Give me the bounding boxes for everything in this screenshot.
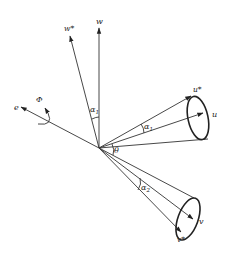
- v-star-label: v*: [177, 235, 185, 244]
- alpha1-arc-w: [92, 117, 99, 119]
- u-cone-base: [184, 94, 213, 141]
- w-star-vector: [70, 36, 99, 148]
- phi-label: Φ: [36, 95, 43, 104]
- e-label: e: [14, 103, 19, 112]
- theta-label: θ: [114, 146, 119, 155]
- e-vector: [21, 107, 99, 148]
- alpha1-w-label: α1: [90, 105, 99, 115]
- w-star-label: w*: [64, 24, 74, 33]
- vector-diagram: w w* α1 e Φ u* u α1 θ v v* α2: [0, 0, 228, 260]
- u-star-label: u*: [193, 85, 202, 94]
- w-label: w: [96, 17, 103, 26]
- phi-rotation-icon: [38, 108, 50, 124]
- alpha1-u-label: α1: [144, 122, 153, 132]
- v-cone: [99, 148, 205, 243]
- u-cone: [99, 94, 212, 148]
- alpha2-label: α2: [141, 183, 150, 193]
- v-label: v: [199, 217, 204, 226]
- u-label: u: [212, 110, 217, 119]
